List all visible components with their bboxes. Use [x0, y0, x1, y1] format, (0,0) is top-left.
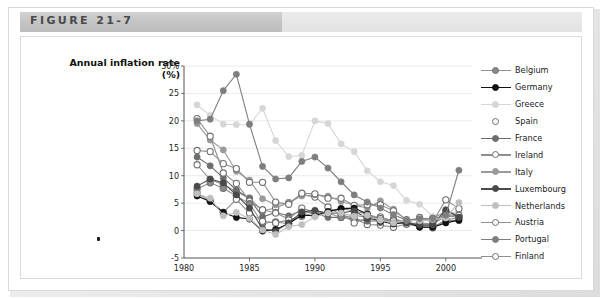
legend-item-finland[interactable]: Finland: [481, 248, 601, 265]
x-tick-label: 1985: [239, 264, 259, 273]
data-point: [299, 152, 305, 158]
legend-item-ireland[interactable]: Ireland: [481, 146, 601, 163]
data-point: [233, 165, 239, 171]
data-point: [456, 206, 462, 212]
legend-label: Ireland: [511, 150, 543, 160]
data-point: [351, 213, 357, 219]
legend-marker-icon: [481, 80, 511, 94]
y-tick-label: -5: [171, 254, 179, 263]
legend-label: Italy: [511, 167, 533, 177]
data-point: [194, 162, 200, 168]
legend-marker-icon: [481, 97, 511, 111]
legend-item-belgium[interactable]: Belgium: [481, 62, 601, 79]
data-point: [364, 212, 370, 218]
data-point: [273, 138, 279, 144]
data-point: [259, 105, 265, 111]
chart-legend: BelgiumGermanyGreeceSpainFranceIrelandIt…: [481, 62, 601, 265]
legend-label: Germany: [511, 82, 553, 92]
y-tick-label: 0: [174, 227, 179, 236]
data-point: [338, 210, 344, 216]
legend-item-netherlands[interactable]: Netherlands: [481, 197, 601, 214]
data-point: [325, 165, 331, 171]
data-point: [325, 195, 331, 201]
data-point: [220, 88, 226, 94]
data-point: [207, 176, 213, 182]
legend-label: France: [511, 133, 542, 143]
data-point: [299, 209, 305, 215]
page-speck: [97, 237, 100, 241]
legend-item-greece[interactable]: Greece: [481, 96, 601, 113]
data-point: [325, 210, 331, 216]
data-point: [259, 196, 265, 202]
data-point: [194, 183, 200, 189]
legend-item-portugal[interactable]: Portugal: [481, 231, 601, 248]
legend-item-luxembourg[interactable]: Luxembourg: [481, 180, 601, 197]
data-point: [246, 121, 252, 127]
data-point: [417, 215, 423, 221]
data-point: [312, 118, 318, 124]
x-tick-label: 1980: [174, 264, 194, 273]
data-point: [273, 210, 279, 216]
data-point: [273, 220, 279, 226]
legend-item-france[interactable]: France: [481, 130, 601, 147]
data-point: [194, 154, 200, 160]
data-point: [351, 192, 357, 198]
data-point: [377, 205, 383, 211]
data-point: [220, 180, 226, 186]
data-point: [299, 158, 305, 164]
legend-label: Austria: [511, 217, 544, 227]
legend-marker-icon: [481, 232, 511, 246]
data-point: [273, 199, 279, 205]
data-point: [246, 205, 252, 211]
data-point: [377, 179, 383, 185]
data-point: [273, 231, 279, 237]
legend-item-germany[interactable]: Germany: [481, 79, 601, 96]
data-point: [364, 168, 370, 174]
data-point: [443, 212, 449, 218]
legend-marker-icon: [481, 199, 511, 213]
legend-label: Finland: [511, 251, 544, 261]
data-point: [286, 175, 292, 181]
legend-item-spain[interactable]: Spain: [481, 113, 601, 130]
y-tick-label: 30%: [161, 62, 179, 71]
legend-item-italy[interactable]: Italy: [481, 163, 601, 180]
data-point: [233, 180, 239, 186]
data-point: [207, 163, 213, 169]
data-point: [338, 179, 344, 185]
data-point: [364, 199, 370, 205]
data-point: [246, 215, 252, 221]
data-point: [233, 209, 239, 215]
x-tick-label: 1995: [370, 264, 390, 273]
data-point: [207, 195, 213, 201]
legend-item-austria[interactable]: Austria: [481, 214, 601, 231]
legend-marker-icon: [481, 215, 511, 229]
data-point: [403, 197, 409, 203]
legend-marker-icon: [481, 148, 511, 162]
y-tick-label: 5: [174, 199, 179, 208]
data-point: [259, 163, 265, 169]
legend-marker-icon: [481, 131, 511, 145]
data-point: [259, 218, 265, 224]
data-point: [390, 182, 396, 188]
data-point: [220, 213, 226, 219]
data-point: [377, 217, 383, 223]
data-point: [233, 71, 239, 77]
legend-label: Spain: [511, 116, 538, 126]
data-point: [259, 179, 265, 185]
data-point: [338, 195, 344, 201]
y-tick-label: 10: [169, 172, 179, 181]
data-point: [259, 227, 265, 233]
data-point: [194, 102, 200, 108]
x-tick-label: 2000: [436, 264, 456, 273]
data-point: [325, 121, 331, 127]
data-point: [390, 220, 396, 226]
data-point: [207, 148, 213, 154]
data-point: [233, 192, 239, 198]
data-point: [194, 191, 200, 197]
data-point: [286, 201, 292, 207]
figure-container: FIGURE 21-7 Annual inflation rate (%) 30…: [0, 0, 610, 299]
legend-marker-icon: [481, 114, 511, 128]
data-point: [299, 221, 305, 227]
legend-label: Greece: [511, 99, 544, 109]
y-tick-label: 20: [169, 117, 179, 126]
